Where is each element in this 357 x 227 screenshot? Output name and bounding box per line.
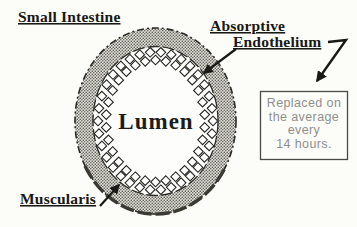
note-line-3: every [288,123,321,137]
small-intestine-label: Small Intestine [18,8,120,25]
diagram-canvas: Lumen Small Intestine Absorptive Endothe… [0,0,357,227]
absorptive-label: Absorptive [210,17,285,34]
note-line-1: Replaced on [267,96,342,110]
lumen-label: Lumen [118,109,193,134]
note-line-4: 14 hours. [276,137,332,151]
muscularis-label: Muscularis [20,190,96,207]
endothelium-label: Endothelium [233,33,321,50]
note-pointer-arrow [317,40,346,81]
note-line-2: the average [269,110,339,124]
small-intestine-diagram: Lumen Small Intestine Absorptive Endothe… [0,0,357,227]
